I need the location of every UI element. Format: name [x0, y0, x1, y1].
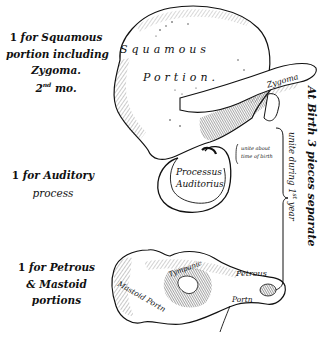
- label-time-of-birth: time of birth: [241, 154, 273, 159]
- small-brace: [236, 144, 238, 164]
- label-squamous-word: Squamous: [120, 44, 210, 55]
- label-line: for Auditory: [23, 169, 94, 181]
- label-squamous-ossification: 1 for Squamous portion including Zygoma.…: [6, 32, 106, 93]
- text-part: year: [287, 202, 297, 221]
- label-line: for Squamous: [21, 31, 103, 43]
- label-unite-about: unite about: [241, 146, 270, 151]
- count-number: 1: [18, 261, 25, 273]
- label-line: mo.: [55, 81, 77, 93]
- ordinal-suffix: st: [292, 194, 299, 200]
- label-line: & Mastoid: [14, 279, 99, 290]
- count-number: 1: [10, 31, 17, 43]
- label-petrous-ossification: 1 for Petrous & Mastoid portions: [14, 262, 99, 306]
- label-line: portions: [14, 295, 99, 306]
- label-line: process: [8, 188, 98, 199]
- label-portion-word: Portion.: [143, 72, 219, 83]
- label-at-birth-vertical: At Birth 3 pieces separate: [305, 86, 318, 247]
- label-auditory-ossification: 1 for Auditory process: [8, 170, 98, 198]
- label-line: 2: [35, 81, 42, 93]
- label-portion-small: Portn: [232, 296, 253, 304]
- count-number: 1: [12, 169, 19, 181]
- label-line: for Petrous: [29, 261, 95, 273]
- diagram-stage: 1 for Squamous portion including Zygoma.…: [0, 0, 320, 339]
- label-unite-first-year-vertical: unite during 1st year: [287, 132, 299, 221]
- label-petrous: Petrous: [236, 270, 267, 278]
- label-line: Zygoma.: [6, 65, 106, 76]
- ordinal-suffix: nd: [43, 81, 52, 88]
- label-processus: Processus: [176, 168, 222, 177]
- text-part: unite during 1: [287, 132, 297, 194]
- label-auditorius: Auditorius: [176, 180, 224, 189]
- label-line: portion including: [6, 49, 106, 60]
